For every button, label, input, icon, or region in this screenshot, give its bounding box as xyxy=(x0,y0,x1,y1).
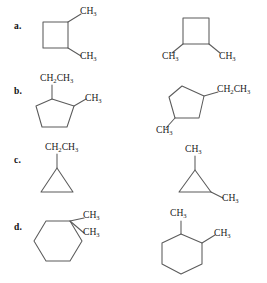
worksheet-sheet: a. CH3 CH3 CH3 xyxy=(0,0,267,283)
ring-cyclohexane xyxy=(162,234,202,274)
bond-to-ethyl xyxy=(204,92,218,96)
substituent-label-methyl-upper: CH3 xyxy=(83,210,100,220)
bond-to-methyl-lower xyxy=(70,221,84,233)
ring-cyclobutane xyxy=(183,18,209,44)
structure-a-right: CH3 CH3 xyxy=(172,10,262,65)
ring-cyclobutane xyxy=(43,22,68,48)
substituent-label-methyl-top: CH3 xyxy=(80,6,97,16)
structure-d-right: CH3 CH3 xyxy=(160,212,260,280)
substituent-label-methyl-right: CH3 xyxy=(222,193,239,203)
structure-c-right: CH3 CH3 xyxy=(178,145,266,203)
problem-row-c: c. CH2CH3 CH3 CH3 xyxy=(0,137,267,204)
problem-row-d: d. CH3 CH3 CH3 xyxy=(0,204,267,283)
substituent-label-methyl-right: CH3 xyxy=(219,51,236,61)
structure-b-right: CH2CH3 CH3 xyxy=(162,79,262,137)
structure-d-left: CH3 CH3 xyxy=(34,210,124,278)
row-label-d: d. xyxy=(14,222,22,232)
substituent-label-methyl-top: CH3 xyxy=(170,208,187,218)
substituent-label-ethyl: CH2CH3 xyxy=(40,73,73,83)
ring-cyclopentane xyxy=(169,86,204,118)
problem-row-a: a. CH3 CH3 CH3 xyxy=(0,0,267,71)
substituent-label-ethyl: CH2CH3 xyxy=(217,84,250,94)
substituent-label-methyl-bottom: CH3 xyxy=(80,51,97,61)
structure-b-left: CH2CH3 CH3 xyxy=(36,75,121,137)
substituent-label-methyl: CH3 xyxy=(156,125,173,135)
row-label-b: b. xyxy=(14,86,22,96)
substituent-label-methyl-top: CH3 xyxy=(185,144,202,154)
ring-cyclopentane xyxy=(36,99,74,127)
substituent-label-methyl: CH3 xyxy=(85,93,102,103)
ring-cyclohexane xyxy=(34,221,82,261)
substituent-label-methyl-lower: CH3 xyxy=(83,227,100,237)
substituent-label-ethyl: CH2CH3 xyxy=(45,142,78,152)
row-label-a: a. xyxy=(14,21,22,31)
substituent-label-methyl-right: CH3 xyxy=(214,228,231,238)
substituent-label-methyl-left: CH3 xyxy=(162,51,179,61)
structure-a-left: CH3 CH3 xyxy=(42,10,112,65)
problem-row-b: b. CH2CH3 CH3 CH2CH3 xyxy=(0,71,267,137)
bond-to-methyl-upper xyxy=(70,218,84,221)
row-label-c: c. xyxy=(14,155,21,165)
structure-c-left: CH2CH3 xyxy=(40,145,125,201)
ring-cyclopropane xyxy=(41,168,73,192)
ring-cyclopropane xyxy=(179,170,211,192)
